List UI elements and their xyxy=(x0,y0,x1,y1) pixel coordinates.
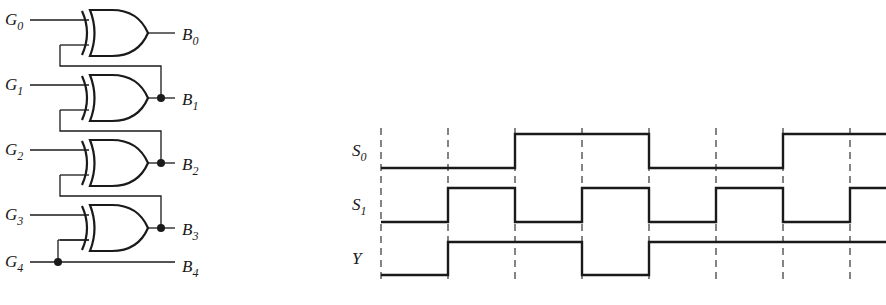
label-b4: B4 xyxy=(182,257,198,280)
signal-label-s1: S1 xyxy=(352,195,367,218)
label-b2: B2 xyxy=(182,155,198,178)
feedback-wire-2 xyxy=(60,175,161,228)
gray-to-binary-circuit: G0B0G1B1G2B2G3B3G4B4 xyxy=(5,10,198,280)
label-g4: G4 xyxy=(5,252,23,275)
waveform-s0 xyxy=(381,134,886,168)
xor-gate-3 xyxy=(30,205,175,251)
feedback-wire-1 xyxy=(60,110,161,163)
waveform-y xyxy=(381,242,886,275)
label-g0: G0 xyxy=(5,10,23,33)
junction-dot xyxy=(157,159,165,167)
label-g2: G2 xyxy=(5,140,23,163)
junction-dot xyxy=(54,258,62,266)
signal-label-y: Y xyxy=(352,249,363,268)
label-g3: G3 xyxy=(5,205,23,228)
label-b1: B1 xyxy=(182,90,198,113)
xor-gate-2 xyxy=(30,140,175,186)
label-b3: B3 xyxy=(182,220,198,243)
label-b0: B0 xyxy=(182,25,198,48)
xor-gate-0 xyxy=(30,10,175,56)
timing-diagram: S0S1Y xyxy=(352,128,886,282)
junction-dot xyxy=(157,224,165,232)
signal-label-s0: S0 xyxy=(352,141,367,164)
feedback-wire-0 xyxy=(60,45,161,98)
xor-gate-1 xyxy=(30,75,175,121)
diagram-canvas: G0B0G1B1G2B2G3B3G4B4 S0S1Y xyxy=(0,0,886,305)
junction-dot xyxy=(157,94,165,102)
label-g1: G1 xyxy=(5,75,23,98)
waveform-s1 xyxy=(381,188,886,222)
